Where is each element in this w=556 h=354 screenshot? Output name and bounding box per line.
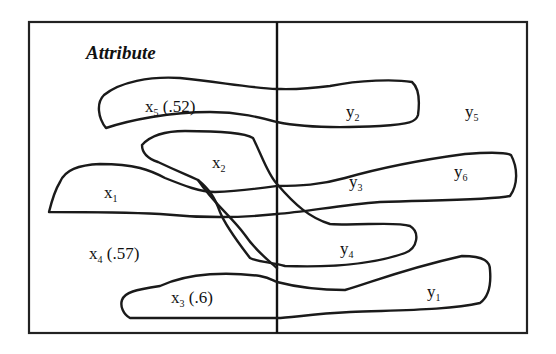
node-x2: x2 xyxy=(212,154,226,174)
node-x5: x5 (.52) xyxy=(145,98,195,118)
node-x3-sub: 3 xyxy=(180,298,185,309)
node-y5: y5 xyxy=(465,103,479,123)
region-x2 xyxy=(142,131,416,266)
node-y5-sub: 5 xyxy=(474,112,479,123)
node-y1-sub: 1 xyxy=(436,292,441,303)
node-x4-value: (.57) xyxy=(107,244,140,263)
node-y6: y6 xyxy=(454,163,468,183)
node-y3: y3 xyxy=(349,173,363,193)
region-x1 xyxy=(49,153,516,217)
node-x5-value: (.52) xyxy=(163,97,196,116)
node-y4-name: y xyxy=(340,239,349,258)
node-x5-sub: 5 xyxy=(154,107,159,118)
node-x1-name: x xyxy=(104,183,113,202)
node-y3-sub: 3 xyxy=(358,182,363,193)
node-y6-sub: 6 xyxy=(463,172,468,183)
node-y1-name: y xyxy=(427,282,436,301)
node-x4: x4 (.57) xyxy=(89,245,139,265)
node-y5-name: y xyxy=(465,102,474,121)
node-y2: y2 xyxy=(346,103,360,123)
node-x3: x3 (.6) xyxy=(171,289,213,309)
node-y4-sub: 4 xyxy=(349,249,354,260)
node-x3-value: (.6) xyxy=(189,288,213,307)
node-y2-sub: 2 xyxy=(355,112,360,123)
diagram-title: Attribute xyxy=(86,42,156,64)
node-x3-name: x xyxy=(171,288,180,307)
node-x2-sub: 2 xyxy=(221,163,226,174)
diagram-drawing xyxy=(0,0,556,354)
node-x2-name: x xyxy=(212,153,221,172)
node-y3-name: y xyxy=(349,172,358,191)
node-x5-name: x xyxy=(145,97,154,116)
node-x1-sub: 1 xyxy=(113,193,118,204)
node-x1: x1 xyxy=(104,184,118,204)
node-y1: y1 xyxy=(427,283,441,303)
node-y6-name: y xyxy=(454,162,463,181)
node-y2-name: y xyxy=(346,102,355,121)
node-y4: y4 xyxy=(340,240,354,260)
attribute-mapping-diagram: Attribute x5 (.52) x2 x1 x4 (.57) x3 (.6… xyxy=(0,0,556,354)
node-x4-name: x xyxy=(89,244,98,263)
node-x4-sub: 4 xyxy=(98,254,103,265)
